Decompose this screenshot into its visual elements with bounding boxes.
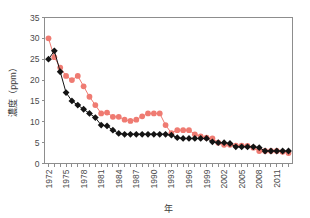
x-tick-label: 2005 [237, 169, 247, 188]
data-point [145, 131, 152, 138]
data-point [104, 110, 110, 116]
data-point [74, 102, 81, 109]
x-tick-label: 1984 [114, 169, 124, 188]
x-axis-title: 年 [164, 203, 173, 214]
data-point [63, 89, 70, 96]
data-point [86, 110, 93, 117]
y-axis-title: 濃度（ppm） [7, 63, 18, 117]
data-point [174, 134, 181, 141]
series-red-series [46, 35, 292, 156]
data-point [162, 131, 169, 138]
x-axis-ticks: 1972197519781981198419871990199319961999… [44, 164, 289, 189]
data-point [262, 148, 269, 155]
x-tick-label: 1987 [131, 169, 141, 188]
data-point [81, 83, 87, 89]
data-point [45, 56, 52, 63]
data-point [174, 127, 180, 133]
data-point [46, 35, 52, 41]
data-point [191, 135, 198, 142]
data-point [150, 131, 157, 138]
data-point [110, 114, 116, 120]
data-point [156, 131, 163, 138]
data-point [69, 77, 75, 83]
data-point [121, 131, 128, 138]
data-point [180, 127, 186, 133]
y-tick-label: 35 [30, 13, 40, 23]
data-point [104, 123, 111, 130]
line-chart: 05101520253035 1972197519781981198419871… [0, 0, 310, 218]
y-axis-ticks: 05101520253035 [30, 13, 44, 169]
data-point [87, 94, 93, 100]
data-point [186, 135, 193, 142]
data-point [109, 127, 116, 134]
series-layer [45, 35, 292, 156]
data-point [98, 111, 104, 117]
data-point [186, 127, 192, 133]
y-tick-label: 0 [35, 159, 40, 169]
y-tick-label: 20 [30, 75, 40, 85]
x-tick-label: 1996 [184, 169, 194, 188]
y-tick-label: 25 [30, 54, 40, 64]
y-tick-label: 30 [30, 33, 40, 43]
data-point [157, 111, 163, 117]
data-point [116, 114, 122, 120]
x-tick-label: 1975 [61, 169, 71, 188]
series-black-series [45, 47, 292, 154]
x-tick-label: 1993 [166, 169, 176, 188]
plot-frame [45, 18, 293, 164]
data-point [69, 98, 76, 105]
series-line-red-series [49, 38, 289, 153]
y-tick-label: 10 [30, 117, 40, 127]
data-point [268, 148, 275, 155]
data-point [139, 113, 145, 119]
data-point [180, 135, 187, 142]
data-point [75, 73, 81, 79]
chart-container: 05101520253035 1972197519781981198419871… [0, 0, 310, 218]
x-tick-label: 1972 [44, 169, 54, 188]
x-tick-label: 1990 [149, 169, 159, 188]
y-tick-label: 5 [35, 138, 40, 148]
data-point [127, 131, 134, 138]
series-line-black-series [49, 51, 289, 151]
data-point [92, 102, 98, 108]
data-point [215, 139, 222, 146]
x-tick-label: 1999 [202, 169, 212, 188]
data-point [133, 117, 139, 123]
x-tick-label: 1981 [96, 169, 106, 188]
data-point [57, 68, 64, 75]
y-tick-label: 15 [30, 96, 40, 106]
data-point [139, 131, 146, 138]
x-tick-label: 2011 [272, 169, 282, 188]
data-point [163, 122, 169, 128]
data-point [128, 118, 134, 124]
data-point [122, 117, 128, 123]
data-point [80, 106, 87, 113]
data-point [151, 111, 157, 117]
data-point [145, 111, 151, 117]
data-point [273, 148, 280, 155]
data-point [63, 73, 69, 79]
data-point [115, 130, 122, 137]
x-tick-label: 1978 [79, 169, 89, 188]
x-tick-label: 2002 [219, 169, 229, 188]
x-tick-label: 2008 [254, 169, 264, 188]
data-point [133, 131, 140, 138]
plot-frame-rect [45, 18, 293, 164]
